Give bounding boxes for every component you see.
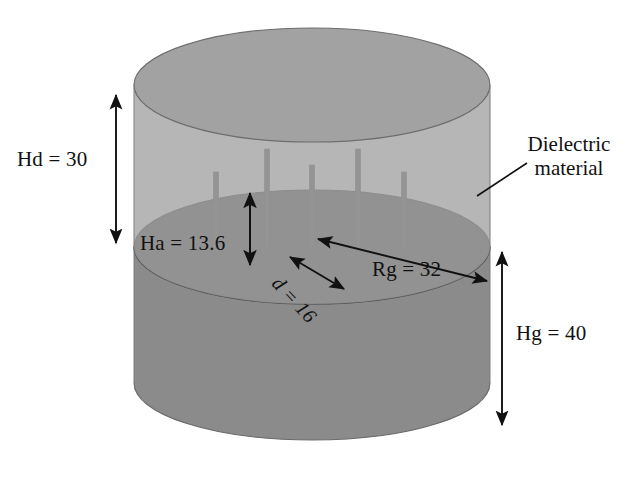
dielectric-callout-line-2: material — [506, 156, 632, 180]
ha-dimension-label: Ha = 13.6 — [140, 232, 225, 256]
cylinder-diagram-svg — [0, 0, 642, 488]
dielectric-callout-line-1: Dielectric — [506, 132, 632, 156]
dielectric-cylinder-top-cap — [134, 28, 490, 142]
dielectric-material-callout: Dielectric material — [506, 132, 632, 181]
rg-dimension-label: Rg = 32 — [372, 258, 441, 282]
figure-canvas: Hd = 30 Ha = 13.6 Rg = 32 Hg = 40 d = 16… — [0, 0, 642, 488]
hd-dimension-label: Hd = 30 — [17, 148, 87, 172]
hg-dimension-label: Hg = 40 — [516, 322, 586, 346]
